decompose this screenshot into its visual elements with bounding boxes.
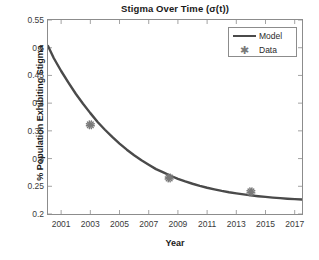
- legend-item-model: Model: [229, 29, 296, 43]
- x-axis-tick-labels: 200120032005200720092011201320152017: [47, 219, 303, 233]
- y-tick-label: 0.5: [2, 43, 44, 53]
- legend-label-data: Data: [259, 45, 277, 55]
- y-axis-tick-labels: 0.20.250.30.350.40.450.50.55: [0, 19, 44, 215]
- data-point-markers: [86, 121, 254, 196]
- chart-figure: Stigma Over Time (σ(t)) % Population Exh…: [0, 0, 319, 260]
- legend-label-model: Model: [259, 31, 282, 41]
- legend-line-swatch: [229, 29, 259, 43]
- y-tick-label: 0.45: [2, 70, 44, 80]
- legend-asterisk-icon: ✱: [229, 43, 259, 57]
- legend-item-data: ✱ Data: [229, 43, 296, 57]
- y-tick-label: 0.55: [2, 15, 44, 25]
- y-tick-label: 0.35: [2, 126, 44, 136]
- y-tick-label: 0.3: [2, 154, 44, 164]
- chart-legend: Model ✱ Data: [228, 27, 297, 57]
- x-axis-label: Year: [47, 238, 303, 248]
- model-line-series: [48, 46, 302, 199]
- x-tick-label: 2017: [275, 219, 315, 229]
- chart-title: Stigma Over Time (σ(t)): [47, 3, 303, 14]
- y-tick-label: 0.2: [2, 209, 44, 219]
- y-tick-label: 0.4: [2, 98, 44, 108]
- y-tick-label: 0.25: [2, 181, 44, 191]
